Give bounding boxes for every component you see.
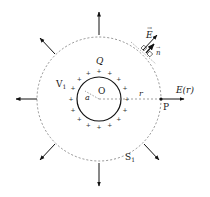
surface-element [131,35,157,64]
field-arrow-upleft [40,38,55,54]
field-arrow-downright [144,144,159,160]
right-angle-box-n [147,51,153,57]
plus-sign: + [116,75,121,82]
arrow-over-n: → [156,44,160,50]
label-center: O [98,86,105,96]
plus-sign: + [86,121,91,128]
plus-sign: + [116,115,121,122]
plus-sign: + [71,106,76,113]
right-angle-box-e [141,45,147,51]
plus-sign: + [96,67,101,74]
field-arrow-downleft [40,144,55,160]
plus-sign: + [71,84,76,91]
plus-sign: + [68,95,73,102]
label-e-vector: E [145,30,153,40]
label-radius-r: r [139,89,144,98]
plus-sign: + [77,75,82,82]
plus-sign: + [122,84,127,91]
label-point-p: P [163,102,169,112]
plus-sign: + [124,95,129,102]
plus-sign: + [77,115,82,122]
plus-sign: + [86,69,91,76]
label-radius-a: a [85,93,90,102]
plus-sign: + [107,69,112,76]
plus-sign: + [96,123,101,130]
surface-sub: 1 [131,156,135,163]
label-charge: Q [96,56,104,66]
label-n-vector: n [156,49,161,57]
label-field-er: E(r) [175,85,194,95]
arrow-over-e: → [147,24,152,31]
volume-sub: 1 [63,83,67,90]
plus-sign: + [107,121,112,128]
label-surface: S1 [125,152,135,163]
plus-sign: + [122,106,127,113]
gauss-diagram: ++++++++++++++++ E → n → Q V1 a O r P E(… [0,0,210,197]
label-volume: V1 [55,79,66,90]
